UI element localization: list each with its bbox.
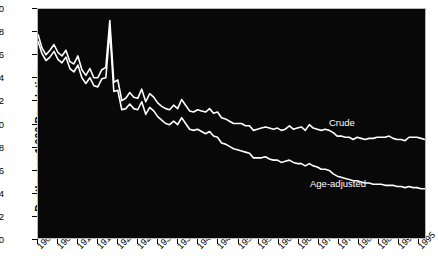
y-tick-label-18: 18 — [0, 26, 4, 37]
line-age-adjusted — [38, 31, 425, 189]
y-tick-label-20: 20 — [0, 3, 4, 14]
y-tick-label-16: 16 — [0, 49, 4, 60]
mortality-rate-chart: Deaths per 1,000 Population 024681012141… — [0, 0, 438, 279]
y-tick-label-12: 12 — [0, 95, 4, 106]
y-tick-label-0: 0 — [0, 234, 4, 245]
series-label-crude: Crude — [329, 117, 355, 128]
plot-area: Crude Age-adjusted — [37, 8, 426, 239]
y-tick-label-10: 10 — [0, 118, 4, 129]
y-tick-label-4: 4 — [0, 187, 4, 198]
y-tick-label-2: 2 — [0, 210, 4, 221]
y-tick-label-8: 8 — [0, 141, 4, 152]
series-lines — [38, 9, 425, 238]
y-tick-label-14: 14 — [0, 72, 4, 83]
line-crude — [38, 20, 425, 140]
y-tick-label-6: 6 — [0, 164, 4, 175]
series-label-age-adjusted: Age-adjusted — [310, 178, 366, 189]
